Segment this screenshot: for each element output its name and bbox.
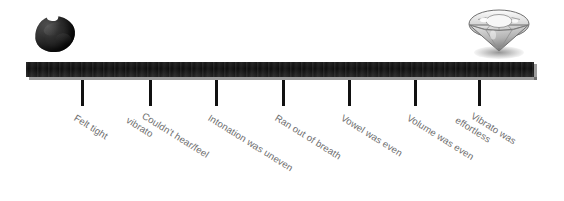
tick-label: Couldn't hear/feelvibrato — [134, 110, 211, 170]
tick-mark — [81, 80, 84, 106]
tick-label: Felt tight — [72, 112, 110, 142]
tick-mark — [478, 80, 481, 106]
tick-label-line-1: Felt tight — [72, 112, 110, 141]
coal-lump-icon — [33, 12, 77, 56]
diamond-icon — [466, 6, 532, 60]
scale-bar-face — [26, 62, 534, 77]
tick-mark — [215, 80, 218, 106]
scale-bar-right-shadow — [534, 64, 537, 80]
tick-mark — [348, 80, 351, 106]
diamond-shadow — [474, 46, 524, 59]
tick-label: Vowel was even — [339, 112, 405, 159]
tick-label: Ran out of breath — [273, 112, 343, 162]
tick-mark — [282, 80, 285, 106]
scale-bar — [26, 62, 538, 81]
tick-mark — [149, 80, 152, 106]
tick-label-line-1: Ran out of breath — [273, 112, 343, 162]
tick-label-line-1: Vowel was even — [339, 112, 404, 159]
coal-to-diamond-scale-diagram: Felt tightCouldn't hear/feelvibratoInton… — [0, 0, 564, 201]
tick-mark — [414, 80, 417, 106]
coal-shadow-facet — [55, 33, 72, 48]
